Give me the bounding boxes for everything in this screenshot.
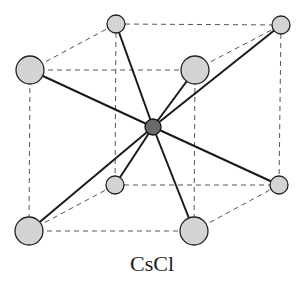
bond-back-bottom-left — [115, 127, 153, 185]
atom-front-bottom-right — [180, 217, 208, 245]
atom-center — [145, 119, 161, 135]
edge-back-left — [115, 24, 116, 185]
bond-front-bottom-left — [29, 127, 153, 231]
diagram-title: CsCl — [130, 251, 174, 276]
atom-front-top-left — [16, 56, 44, 84]
atom-front-bottom-left — [15, 217, 43, 245]
atom-back-top-right — [272, 16, 290, 34]
bond-back-top-right — [153, 25, 281, 127]
edge-front-left — [29, 70, 30, 231]
atom-back-bottom-left — [106, 176, 124, 194]
atom-front-top-right — [181, 56, 209, 84]
atom-back-bottom-right — [270, 176, 288, 194]
edge-back-right — [279, 25, 281, 185]
edge-back-top — [116, 24, 281, 25]
atom-back-top-left — [107, 15, 125, 33]
cscl-unit-cell-diagram: CsCl — [0, 0, 303, 283]
